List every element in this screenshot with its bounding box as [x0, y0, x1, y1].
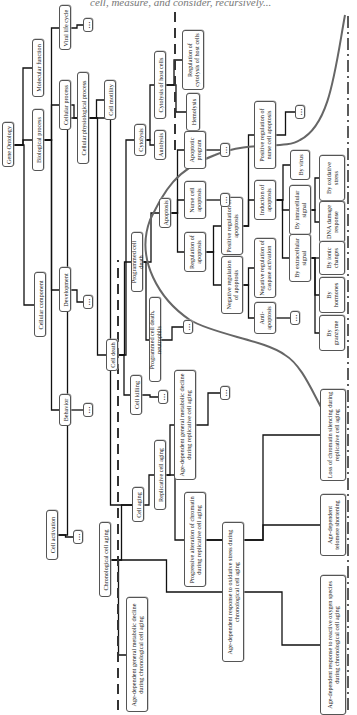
node-hemolysis: Hemolysis — [186, 93, 200, 131]
node-dna-damage-response: DNA damage response — [319, 201, 345, 243]
node-replicative-cell-aging: Replicative cell aging — [154, 440, 166, 510]
ellipsis-more-viral-life-cycle: … — [83, 18, 93, 32]
node-molecular-function: Molecular function — [32, 39, 44, 97]
node-apoptotic-program: Apoptotic program — [184, 131, 206, 169]
node-by-hormones: By hormones — [319, 277, 345, 313]
node-cell-death: Cell death — [106, 339, 118, 371]
node-negative-regulation-caspase-activation: Negative regulation of caspase activatio… — [254, 238, 276, 298]
node-cellular-process: Cellular process — [59, 80, 71, 130]
node-nurse-cell-apoptosis: Nurse cell apoptosis — [184, 181, 206, 219]
ellipsis-more-development: … — [83, 295, 93, 309]
node-age-dependent-metabolic-replicative: Age-dependent general metabolic decline … — [174, 370, 196, 480]
node-negative-regulation-of-apoptosis: Negative regulation of apoptosis — [221, 256, 243, 314]
node-chronological-cell-aging: Chronological cell aging — [99, 523, 111, 598]
node-regulation-of-apoptosis: Regulation of apoptosis — [184, 232, 206, 272]
node-apoptosis: Apoptosis — [159, 198, 171, 228]
node-cell-activation: Cell activation — [46, 510, 58, 560]
node-regulation-of-cytolysis: Regulation of cytolysis of host cells — [182, 30, 204, 90]
node-cell-killing: Cell killing — [130, 375, 142, 415]
node-development: Development — [59, 268, 71, 313]
ellipsis-more-nurse-cell-apoptosis: … — [220, 193, 230, 207]
node-loss-of-chromatin-silencing: Loss of chromatin silencing during repli… — [320, 389, 346, 481]
ellipsis-more-positive-regulation-nurse-cell: … — [295, 105, 305, 119]
node-cytolysis: Cytolysis — [134, 124, 146, 156]
node-anti-apoptosis: Anti-apoptosis — [254, 302, 276, 334]
node-gene-ontology: Gene Ontology — [2, 123, 14, 168]
ellipsis-more-programmed-cell-death-neutrophils: … — [183, 320, 193, 334]
node-programmed-cell-death: Programmed cell death — [131, 232, 143, 292]
node-by-granzyme: By granzyme — [319, 315, 345, 351]
ellipsis-more-cell-killing: … — [158, 390, 168, 404]
node-by-ionic-changes: By ionic changes — [319, 241, 345, 275]
node-cytolysis-of-host-cells: Cytolysis of host cells — [154, 51, 166, 119]
node-biological-process: Biological process — [32, 109, 44, 171]
node-cell-aging: Cell aging — [132, 488, 144, 523]
node-by-oxidative-stress: By oxidative stress — [319, 155, 345, 201]
node-by-intracellular-signal: By intracellular signal — [289, 185, 311, 235]
node-cellular-physiological-process: Cellular physiological process — [77, 72, 89, 164]
node-programmed-cell-death-neutrophils: Programmed cell death, neutrophils — [149, 298, 161, 383]
node-viral-life-cycle: Viral life cycle — [59, 6, 71, 51]
ellipsis-more-cell-activation: … — [73, 530, 83, 544]
node-autolysis: Autolysis — [154, 130, 166, 160]
node-induction-of-apoptosis: Induction of apoptosis — [254, 180, 276, 220]
ellipsis-more-anti-apoptosis: … — [290, 311, 300, 325]
node-by-virus: By virus — [290, 150, 310, 180]
node-by-extracellular-signal: By extracellular signal — [289, 234, 311, 282]
node-age-dependent-telomere-shortening: Age-dependent telomere shortening — [320, 494, 346, 556]
node-progressive-alteration-chromatin: Progressive alteration of chromatin duri… — [184, 493, 206, 588]
node-age-dependent-metabolic-chronological: Age-dependent general metabolic decline … — [126, 598, 148, 713]
node-cellular-component: Cellular component — [34, 273, 46, 338]
ellipsis-more-behavior: … — [83, 403, 93, 417]
node-cell-motility: Cell motility — [104, 80, 116, 120]
node-behavior: Behavior — [59, 394, 71, 426]
ellipsis-more-apoptotic-program: … — [220, 143, 230, 157]
node-age-dependent-response-ros: Age-dependent response to reactive oxyge… — [320, 575, 346, 715]
node-age-dependent-response-oxidative-stress: Age-dependent response to oxidative stre… — [222, 522, 244, 662]
ellipsis-more-age-dependent-metabolic-replicative: … — [220, 386, 230, 400]
node-positive-regulation-nurse-cell-apoptosis: Positive regulation of nurse cell apopto… — [254, 101, 276, 169]
